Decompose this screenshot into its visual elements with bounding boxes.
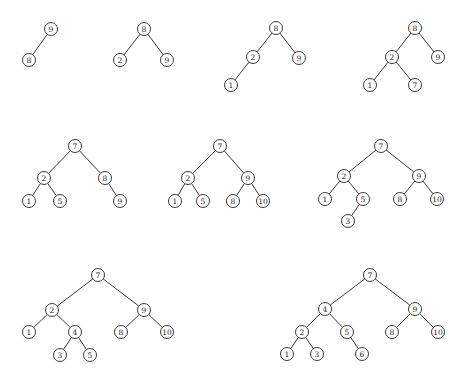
node-label: 9	[142, 306, 147, 315]
tree-edge	[397, 314, 411, 328]
tree-edge	[126, 314, 140, 327]
node-label: 9	[246, 174, 251, 183]
tree-node: 9	[293, 52, 306, 65]
tree-node: 10	[257, 195, 270, 208]
tree-5: 728159	[23, 140, 127, 208]
node-label: 3	[346, 217, 351, 226]
tree-4: 82917	[364, 22, 445, 92]
node-label: 10	[162, 328, 172, 337]
node-label: 1	[323, 195, 328, 204]
node-label: 2	[118, 56, 123, 65]
tree-edge	[306, 337, 314, 348]
tree-edge	[374, 62, 388, 80]
tree-node: 1	[281, 348, 294, 361]
tree-edge	[124, 34, 140, 55]
tree-node: 9	[409, 303, 422, 316]
tree-node: 7	[375, 140, 388, 153]
tree-node: 9	[161, 54, 174, 67]
tree-edge	[79, 151, 100, 174]
node-label: 5	[88, 351, 93, 360]
tree-edge	[291, 337, 299, 348]
node-label: 2	[390, 53, 395, 62]
tree-node: 5	[357, 193, 370, 206]
node-label: 1	[285, 350, 290, 359]
tree-node: 7	[409, 79, 422, 92]
tree-node: 8	[23, 54, 36, 67]
tree-node: 9	[242, 172, 255, 185]
tree-node: 9	[114, 195, 127, 208]
tree-node: 7	[92, 269, 105, 282]
tree-node: 1	[225, 79, 238, 92]
tree-edge	[396, 62, 411, 80]
tree-edge	[103, 279, 139, 306]
node-label: 9	[165, 56, 170, 65]
node-label: 8	[390, 328, 395, 337]
node-label: 3	[58, 351, 63, 360]
tree-edge	[34, 314, 48, 327]
tree-edge	[235, 62, 249, 80]
tree-edge	[252, 183, 260, 195]
tree-8: 7291481035	[23, 269, 174, 362]
tree-node: 1	[364, 79, 377, 92]
tree-node: 2	[338, 170, 351, 183]
node-label: 1	[368, 81, 373, 90]
tree-edge	[329, 314, 342, 328]
node-label: 8	[274, 24, 279, 33]
tree-edge	[330, 279, 365, 305]
node-label: 2	[50, 306, 55, 315]
node-label: 8	[103, 174, 108, 183]
node-label: 5	[361, 195, 366, 204]
node-label: 9	[49, 25, 54, 34]
tree-node: 2	[114, 54, 127, 67]
tree-edge	[420, 314, 434, 328]
node-label: 4	[73, 328, 78, 337]
node-label: 5	[345, 328, 350, 337]
tree-node: 8	[138, 23, 151, 36]
tree-edge	[351, 337, 359, 348]
tree-edge	[148, 34, 163, 55]
tree-node: 9	[432, 51, 445, 64]
tree-3: 8291	[225, 22, 306, 92]
tree-node: 2	[182, 172, 195, 185]
tree-node: 1	[319, 193, 332, 206]
node-label: 8	[413, 24, 418, 33]
node-label: 10	[432, 195, 442, 204]
node-label: 10	[433, 328, 443, 337]
tree-node: 2	[386, 51, 399, 64]
tree-node: 6	[356, 348, 369, 361]
tree-edge	[349, 150, 376, 172]
tree-edge	[348, 181, 359, 194]
tree-node: 5	[341, 326, 354, 339]
tree-edge	[375, 279, 410, 305]
tree-edge	[149, 314, 163, 327]
tree-node: 5	[197, 195, 210, 208]
tree-edge	[396, 33, 411, 52]
tree-node: 7	[364, 269, 377, 282]
tree-diagram-canvas: 9882982918291772815972915810729158103729…	[0, 0, 476, 387]
tree-node: 4	[319, 303, 332, 316]
tree-node: 10	[432, 326, 445, 339]
node-label: 2	[251, 53, 256, 62]
node-label: 10	[258, 197, 268, 206]
tree-edge	[48, 183, 57, 195]
tree-node: 10	[431, 193, 444, 206]
node-label: 9	[413, 305, 418, 314]
tree-node: 2	[296, 326, 309, 339]
node-label: 2	[186, 174, 191, 183]
tree-1: 98	[23, 23, 58, 67]
tree-edge	[280, 33, 295, 53]
tree-7: 729158103	[319, 140, 444, 228]
tree-9: 74925810136	[281, 269, 445, 361]
tree-node: 4	[69, 326, 82, 339]
node-label: 1	[27, 197, 32, 206]
tree-edge	[419, 33, 434, 52]
tree-2: 829	[114, 23, 174, 67]
tree-edge	[224, 151, 243, 173]
tree-edge	[64, 337, 72, 349]
tree-node: 9	[138, 304, 151, 317]
node-label: 8	[142, 25, 147, 34]
tree-node: 8	[386, 326, 399, 339]
tree-node: 3	[311, 348, 324, 361]
tree-node: 2	[38, 172, 51, 185]
node-label: 2	[342, 172, 347, 181]
